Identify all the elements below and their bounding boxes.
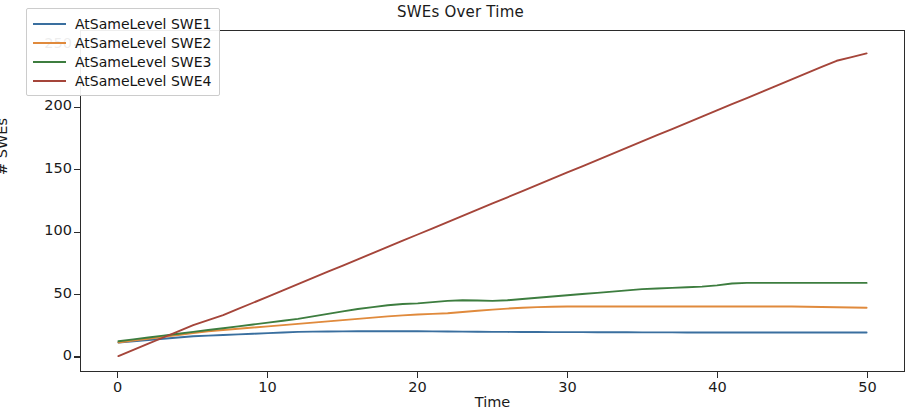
matplotlib-figure: SWEs Over Time # SWEs Time 0501001502002… xyxy=(0,0,921,413)
x-tick-mark xyxy=(267,372,268,378)
legend-color-swatch xyxy=(33,23,66,25)
y-tick-label: 50 xyxy=(20,285,72,301)
series-line-4 xyxy=(118,53,866,356)
chart-legend: AtSameLevel SWE1AtSameLevel SWE2AtSameLe… xyxy=(26,8,220,96)
x-tick-label: 10 xyxy=(238,379,298,395)
y-tick-label: 150 xyxy=(20,160,72,176)
x-tick-label: 40 xyxy=(688,379,748,395)
y-tick-label: 100 xyxy=(20,222,72,238)
y-tick-label: 0 xyxy=(20,347,72,363)
x-tick-mark xyxy=(417,372,418,378)
x-tick-label: 20 xyxy=(388,379,448,395)
legend-color-swatch xyxy=(33,80,66,82)
x-tick-label: 0 xyxy=(88,379,148,395)
legend-label: AtSameLevel SWE1 xyxy=(75,16,211,32)
legend-label: AtSameLevel SWE3 xyxy=(75,54,211,70)
legend-color-swatch xyxy=(33,61,66,63)
y-axis-label: # SWEs xyxy=(0,118,10,175)
x-tick-label: 50 xyxy=(838,379,898,395)
y-tick-label: 200 xyxy=(20,97,72,113)
legend-color-swatch xyxy=(33,42,66,44)
legend-label: AtSameLevel SWE2 xyxy=(75,35,211,51)
x-axis-label: Time xyxy=(80,394,905,410)
legend-item[interactable]: AtSameLevel SWE1 xyxy=(33,14,211,33)
legend-item[interactable]: AtSameLevel SWE2 xyxy=(33,33,211,52)
x-tick-mark xyxy=(117,372,118,378)
x-tick-label: 30 xyxy=(538,379,598,395)
x-tick-mark xyxy=(567,372,568,378)
legend-label: AtSameLevel SWE4 xyxy=(75,73,211,89)
series-line-1 xyxy=(118,331,866,342)
x-tick-mark xyxy=(867,372,868,378)
x-tick-mark xyxy=(717,372,718,378)
legend-item[interactable]: AtSameLevel SWE3 xyxy=(33,52,211,71)
legend-item[interactable]: AtSameLevel SWE4 xyxy=(33,71,211,90)
